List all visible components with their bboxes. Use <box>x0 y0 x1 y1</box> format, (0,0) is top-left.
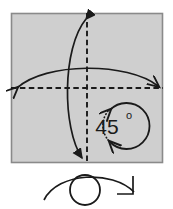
degree-symbol: o <box>126 109 132 121</box>
diagram-canvas: 45 o <box>0 0 173 209</box>
flip-pivot-circle <box>70 175 100 205</box>
rotation-flip-diagram: 45 o <box>0 0 173 209</box>
rotation-angle-value: 45 <box>95 115 118 138</box>
flip-roll-indicator <box>44 175 134 205</box>
flip-arc-arrow <box>44 177 134 200</box>
